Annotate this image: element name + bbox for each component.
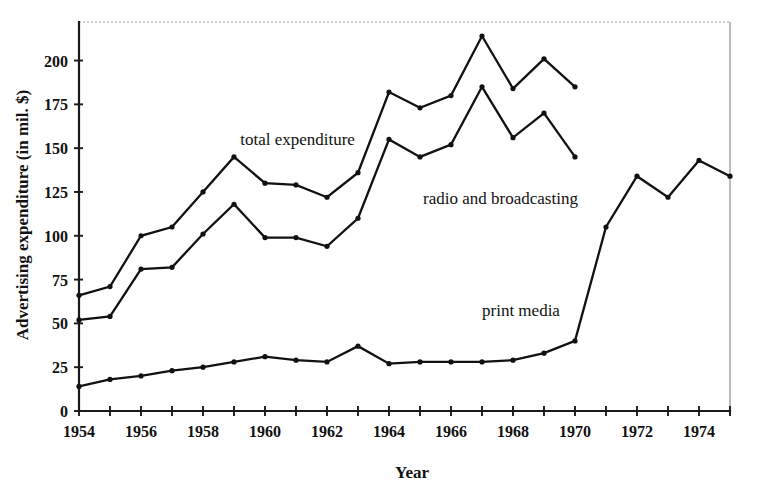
data-point <box>200 365 205 370</box>
data-point <box>448 93 453 98</box>
data-point <box>479 84 484 89</box>
axis-tick-labels: 0255075100125150175200195419561958196019… <box>44 53 715 440</box>
data-point <box>510 135 515 140</box>
plot-frame <box>79 22 730 411</box>
line-chart: 0255075100125150175200195419561958196019… <box>0 0 760 491</box>
data-point <box>355 170 360 175</box>
data-point <box>355 216 360 221</box>
data-point <box>262 354 267 359</box>
data-point <box>200 189 205 194</box>
data-point <box>386 137 391 142</box>
data-point <box>572 154 577 159</box>
data-point <box>231 202 236 207</box>
data-point <box>293 235 298 240</box>
data-point <box>417 154 422 159</box>
x-tick-label: 1968 <box>497 423 529 440</box>
y-tick-label: 150 <box>44 140 68 157</box>
data-point <box>200 231 205 236</box>
data-point <box>76 384 81 389</box>
data-point <box>727 174 732 179</box>
x-tick-label: 1962 <box>311 423 343 440</box>
data-point <box>169 265 174 270</box>
data-point <box>138 266 143 271</box>
data-point <box>696 158 701 163</box>
plot-axes <box>79 22 730 411</box>
y-tick-label: 200 <box>44 53 68 70</box>
data-series-group <box>79 36 730 386</box>
data-point <box>572 338 577 343</box>
data-point <box>107 377 112 382</box>
data-point <box>138 373 143 378</box>
data-point <box>541 351 546 356</box>
series-annotations: total expenditureradio and broadcastingp… <box>240 130 578 321</box>
x-axis-title: Year <box>395 463 429 482</box>
data-point <box>386 89 391 94</box>
y-tick-label: 125 <box>44 184 68 201</box>
data-point <box>665 195 670 200</box>
data-point <box>231 154 236 159</box>
x-tick-label: 1974 <box>683 423 715 440</box>
data-point <box>510 358 515 363</box>
data-point <box>169 224 174 229</box>
data-point <box>262 235 267 240</box>
x-tick-label: 1970 <box>559 423 591 440</box>
data-point <box>603 224 608 229</box>
data-point <box>510 86 515 91</box>
y-tick-label: 50 <box>52 315 68 332</box>
data-point <box>262 181 267 186</box>
data-point <box>293 182 298 187</box>
data-point <box>107 284 112 289</box>
data-point <box>417 359 422 364</box>
x-tick-label: 1954 <box>63 423 95 440</box>
y-tick-label: 75 <box>52 272 68 289</box>
y-tick-label: 0 <box>60 403 68 420</box>
series-label-2: print media <box>482 301 560 320</box>
data-point <box>448 142 453 147</box>
x-tick-label: 1958 <box>187 423 219 440</box>
chart-page: 0255075100125150175200195419561958196019… <box>0 0 760 491</box>
data-point <box>479 33 484 38</box>
data-point <box>572 84 577 89</box>
series-label-0: total expenditure <box>240 130 355 149</box>
x-tick-label: 1972 <box>621 423 653 440</box>
data-point <box>76 293 81 298</box>
data-point <box>634 174 639 179</box>
x-tick-label: 1966 <box>435 423 467 440</box>
series-label-1: radio and broadcasting <box>423 189 578 208</box>
data-point <box>324 359 329 364</box>
data-point <box>479 359 484 364</box>
series-line-2 <box>79 160 730 386</box>
data-point <box>107 314 112 319</box>
y-axis-title: Advertising expenditure (in mil. $) <box>13 90 32 340</box>
x-tick-label: 1956 <box>125 423 157 440</box>
x-tick-label: 1960 <box>249 423 281 440</box>
data-point <box>324 244 329 249</box>
data-point <box>541 56 546 61</box>
data-point <box>448 359 453 364</box>
data-point <box>386 361 391 366</box>
data-point <box>355 344 360 349</box>
data-point <box>231 359 236 364</box>
y-tick-label: 175 <box>44 96 68 113</box>
data-markers-group <box>76 33 732 389</box>
data-point <box>76 317 81 322</box>
data-point <box>293 358 298 363</box>
data-point <box>541 111 546 116</box>
y-tick-label: 100 <box>44 228 68 245</box>
y-tick-label: 25 <box>52 359 68 376</box>
series-line-0 <box>79 36 575 295</box>
data-point <box>417 105 422 110</box>
data-point <box>169 368 174 373</box>
data-point <box>138 233 143 238</box>
data-point <box>324 195 329 200</box>
x-tick-label: 1964 <box>373 423 405 440</box>
